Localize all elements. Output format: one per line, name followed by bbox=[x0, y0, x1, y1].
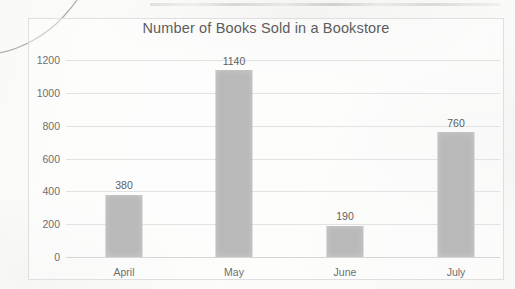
y-tick-1200: 1200 bbox=[14, 54, 60, 66]
y-tick-600: 600 bbox=[14, 153, 60, 165]
x-axis-category-labels: April May June July bbox=[66, 0, 500, 289]
category-label-july: July bbox=[447, 266, 466, 278]
scanned-page: Number of Books Sold in a Bookstore 380 … bbox=[0, 0, 515, 289]
y-tick-1000: 1000 bbox=[14, 87, 60, 99]
category-label-may: May bbox=[224, 266, 244, 278]
category-label-april: April bbox=[113, 266, 134, 278]
category-label-june: June bbox=[334, 266, 357, 278]
y-tick-400: 400 bbox=[14, 185, 60, 197]
y-tick-800: 800 bbox=[14, 120, 60, 132]
y-axis-tick-labels: 1200 1000 800 600 400 200 0 bbox=[12, 0, 60, 289]
y-tick-200: 200 bbox=[14, 218, 60, 230]
y-tick-0: 0 bbox=[14, 251, 60, 263]
